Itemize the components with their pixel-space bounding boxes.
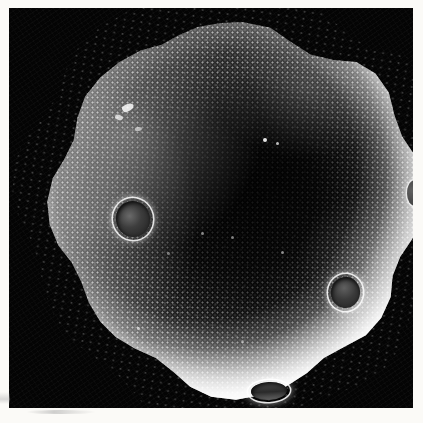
micrograph-page — [0, 0, 423, 423]
grain-texture-mask — [45, 20, 413, 402]
surface-speck-g — [137, 327, 140, 330]
surface-speck-b — [276, 142, 279, 145]
micrograph-field — [9, 8, 413, 408]
surface-debris-a — [121, 102, 135, 114]
surface-speck-d — [231, 236, 234, 239]
grain-highlight — [45, 20, 413, 402]
print-border-smudge-b — [0, 392, 10, 404]
grain-texture-primary — [45, 20, 413, 402]
germ-pore-bottom — [247, 379, 290, 403]
surface-debris-b — [114, 114, 123, 121]
surface-speck-h — [241, 340, 244, 343]
pore-annulus — [109, 194, 157, 243]
germ-pore-left — [109, 194, 157, 243]
surface-speck-e — [281, 251, 284, 254]
germ-pore-right — [326, 272, 365, 312]
grain-texture-tertiary — [9, 8, 413, 408]
surface-speck-f — [167, 252, 170, 255]
pore-annulus — [247, 379, 290, 403]
surface-speck-c — [201, 232, 204, 235]
pollen-grain — [45, 20, 413, 402]
grain-core-shadow — [45, 20, 413, 402]
surface-speck-a — [263, 138, 267, 142]
grain-texture-secondary — [45, 20, 413, 402]
print-border-smudge-a — [26, 410, 96, 414]
grain-body — [45, 20, 413, 402]
pore-annulus — [326, 272, 365, 312]
grain-rim-glow — [45, 20, 413, 402]
photographic-print — [0, 0, 423, 423]
surface-debris-c — [135, 127, 142, 132]
